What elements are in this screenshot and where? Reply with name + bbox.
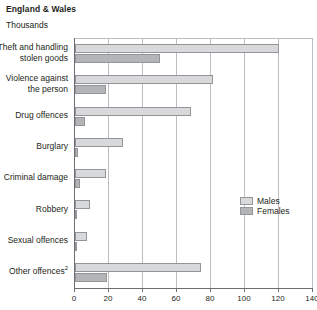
category-label: Other offences2: [0, 266, 68, 277]
legend-item-males: Males: [240, 196, 312, 206]
legend-label-females: Females: [257, 206, 290, 216]
category-label-line: Burglary: [0, 141, 68, 152]
legend-swatch-females-icon: [240, 207, 253, 215]
x-tick-label: 0: [59, 294, 89, 303]
bar-males: [75, 75, 213, 84]
x-tick: [176, 288, 177, 292]
category-label-line: Drug offences: [0, 110, 68, 121]
bar-females: [75, 210, 77, 219]
category-label: Sexual offences: [0, 235, 68, 246]
category-label-line: Violence against: [0, 73, 68, 84]
bar-males: [75, 263, 201, 272]
x-tick-label: 120: [263, 294, 293, 303]
x-tick: [74, 288, 75, 292]
bar-females: [75, 242, 77, 251]
page-title: England & Wales: [6, 4, 76, 14]
category-label-line: the person: [0, 84, 68, 95]
gridline: [312, 38, 313, 288]
category-label: Robbery: [0, 204, 68, 215]
category-label-line: stolen goods: [0, 53, 68, 64]
x-tick: [210, 288, 211, 292]
category-label-line: Robbery: [0, 204, 68, 215]
category-label-line: Criminal damage: [0, 172, 68, 183]
category-label-line: Sexual offences: [0, 235, 68, 246]
x-tick-label: 140: [297, 294, 317, 303]
category-label: Criminal damage: [0, 172, 68, 183]
x-tick: [108, 288, 109, 292]
x-tick-label: 100: [229, 294, 259, 303]
bar-males: [75, 169, 106, 178]
legend-label-males: Males: [257, 196, 280, 206]
chart-page: England & Wales Thousands Theft and hand…: [0, 0, 317, 310]
chart-legend: Males Females: [240, 196, 312, 216]
bar-females: [75, 117, 85, 126]
x-tick: [142, 288, 143, 292]
x-tick: [312, 288, 313, 292]
category-label: Violence againstthe person: [0, 73, 68, 94]
x-tick-label: 60: [161, 294, 191, 303]
gridline: [278, 38, 279, 288]
x-tick: [278, 288, 279, 292]
bar-males: [75, 107, 191, 116]
bar-females: [75, 148, 78, 157]
bar-males: [75, 232, 87, 241]
bar-females: [75, 85, 106, 94]
category-label-line: Other offences2: [0, 266, 68, 277]
x-tick-label: 40: [127, 294, 157, 303]
x-tick: [244, 288, 245, 292]
legend-swatch-males-icon: [240, 197, 253, 205]
legend-item-females: Females: [240, 206, 312, 216]
bar-females: [75, 179, 80, 188]
footnote-marker: 2: [65, 265, 68, 271]
x-tick-label: 80: [195, 294, 225, 303]
bar-males: [75, 44, 279, 53]
x-tick-label: 20: [93, 294, 123, 303]
category-label: Burglary: [0, 141, 68, 152]
bar-males: [75, 138, 123, 147]
gridline: [244, 38, 245, 288]
units-label: Thousands: [6, 20, 48, 30]
category-label-line: Theft and handling: [0, 42, 68, 53]
bar-females: [75, 54, 160, 63]
bar-males: [75, 200, 90, 209]
bar-females: [75, 273, 107, 282]
category-label: Drug offences: [0, 110, 68, 121]
plot-area: [74, 38, 313, 288]
category-label: Theft and handlingstolen goods: [0, 42, 68, 63]
